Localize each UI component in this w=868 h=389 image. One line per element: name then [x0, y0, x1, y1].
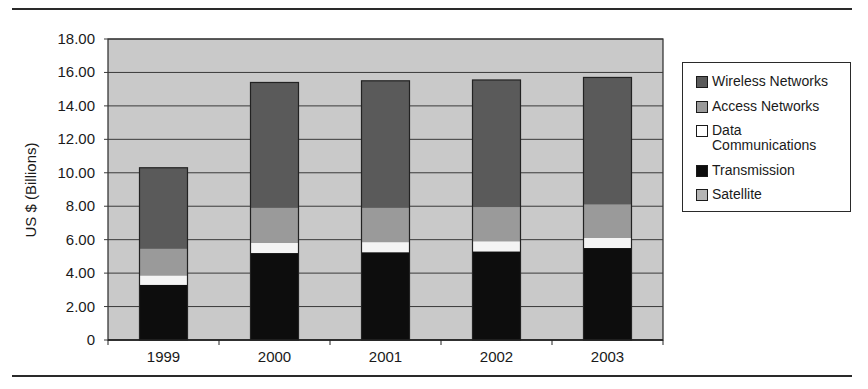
- bar-segment: [473, 251, 521, 340]
- legend: Wireless Networks Access Networks Data C…: [682, 62, 851, 212]
- legend-label: Satellite: [712, 187, 762, 202]
- bar-segment: [362, 252, 410, 340]
- y-axis-title: US $ (Billions): [22, 142, 39, 237]
- x-tick-label: 2002: [480, 348, 513, 365]
- bar-segment: [584, 248, 632, 340]
- legend-swatch-icon: [696, 165, 708, 177]
- x-tick-label: 2001: [369, 348, 402, 365]
- legend-item-transmission: Transmission: [696, 163, 795, 178]
- y-tick-label: 6.00: [66, 231, 95, 248]
- y-tick-label: 14.00: [57, 97, 95, 114]
- legend-label: Wireless Networks: [712, 74, 828, 89]
- bar-segment: [251, 208, 299, 243]
- x-tick-label: 2000: [258, 348, 291, 365]
- bar-segment: [362, 81, 410, 208]
- bar-segment: [140, 249, 188, 276]
- legend-item-access-networks: Access Networks: [696, 99, 819, 114]
- bar-segment: [251, 82, 299, 207]
- bar-segment: [473, 241, 521, 251]
- y-tick-label: 16.00: [57, 63, 95, 80]
- bar-segment: [140, 276, 188, 285]
- legend-swatch-icon: [696, 101, 708, 113]
- bar-segment: [473, 207, 521, 241]
- legend-label: Data Communications: [712, 123, 816, 153]
- bar-segment: [584, 77, 632, 204]
- bar-segment: [473, 80, 521, 207]
- legend-label: Access Networks: [712, 99, 819, 114]
- y-tick-label: 8.00: [66, 197, 95, 214]
- bar-segment: [362, 242, 410, 252]
- plot-area: 02.004.006.008.0010.0012.0014.0016.0018.…: [57, 30, 663, 365]
- legend-item-wireless-networks: Wireless Networks: [696, 74, 828, 89]
- y-tick-label: 4.00: [66, 264, 95, 281]
- bar-segment: [362, 208, 410, 242]
- legend-item-satellite: Satellite: [696, 187, 762, 202]
- y-tick-label: 2.00: [66, 298, 95, 315]
- y-tick-label: 10.00: [57, 164, 95, 181]
- legend-label: Transmission: [712, 163, 795, 178]
- bar-segment: [251, 253, 299, 340]
- bar-segment: [251, 243, 299, 253]
- x-tick-label: 2003: [591, 348, 624, 365]
- bar-segment: [584, 205, 632, 238]
- legend-item-data-communications: Data Communications: [696, 123, 816, 153]
- bar-segment: [584, 238, 632, 248]
- x-tick-label: 1999: [147, 348, 180, 365]
- y-tick-label: 12.00: [57, 130, 95, 147]
- legend-swatch-icon: [696, 189, 708, 201]
- y-tick-label: 0: [87, 331, 95, 348]
- y-tick-label: 18.00: [57, 30, 95, 47]
- legend-swatch-icon: [696, 125, 708, 137]
- legend-swatch-icon: [696, 76, 708, 88]
- bar-segment: [140, 285, 188, 340]
- bar-segment: [140, 168, 188, 249]
